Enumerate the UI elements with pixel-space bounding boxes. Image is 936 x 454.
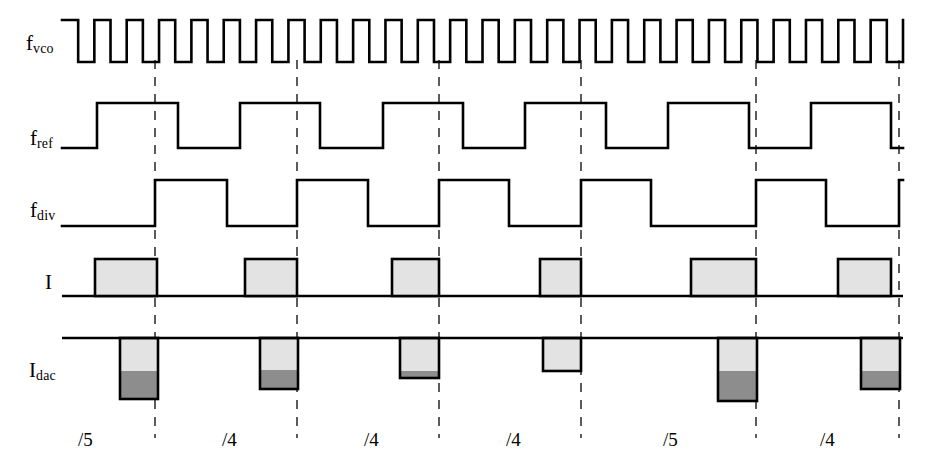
dac-pulse-dark-5: [861, 371, 900, 389]
trace-f_div: [62, 180, 903, 226]
current-pulse-5: [838, 259, 891, 296]
current-pulse-3: [540, 259, 581, 296]
dac-pulse-light-1: [260, 338, 298, 370]
signal-label-subscript-fref: ref: [37, 136, 53, 151]
signal-label-subscript-fvco: vco: [33, 41, 54, 56]
signal-label-subscript-fdiv: div: [37, 208, 55, 223]
current-pulse-0: [95, 259, 157, 296]
signal-label-subscript-idac: dac: [36, 368, 56, 383]
signal-label-fvco: fvco: [26, 33, 54, 56]
dac-pulse-light-4: [718, 338, 757, 371]
dac-pulse-dark-1: [260, 370, 298, 389]
signal-label-i: I: [45, 272, 52, 293]
current-pulse-1: [245, 259, 297, 296]
signal-label-base-idac: I: [29, 358, 36, 382]
signal-label-fdiv: fdiv: [30, 200, 55, 223]
divider-ratio-label-1: /4: [222, 430, 237, 449]
dac-pulse-dark-0: [120, 371, 158, 399]
signal-label-fref: fref: [30, 128, 53, 151]
waveform-canvas: [0, 0, 936, 454]
dac-pulse-light-3: [543, 338, 581, 371]
timing-diagram-figure: fvco fref fdiv I Idac /5/4/4/4/5/4: [0, 0, 936, 454]
signal-label-base-fvco: f: [26, 31, 33, 55]
current-pulse-4: [691, 259, 756, 296]
trace-f_vco: [62, 20, 903, 62]
signal-label-base-fdiv: f: [30, 198, 37, 222]
dac-pulse-light-0: [120, 338, 158, 371]
signal-traces: [62, 20, 903, 401]
dac-pulse-dark-4: [718, 371, 757, 401]
divider-ratio-label-5: /4: [820, 430, 835, 449]
signal-label-base-fref: f: [30, 126, 37, 150]
current-pulse-2: [392, 259, 439, 296]
divider-ratio-label-2: /4: [364, 430, 379, 449]
divider-ratio-label-0: /5: [78, 430, 93, 449]
divider-ratio-label-3: /4: [506, 430, 521, 449]
divider-ratio-label-4: /5: [663, 430, 678, 449]
dac-pulse-light-2: [400, 338, 439, 371]
signal-label-idac: Idac: [29, 360, 56, 383]
trace-f_ref: [62, 103, 903, 148]
signal-label-base-i: I: [45, 270, 52, 294]
dac-pulse-light-5: [861, 338, 900, 371]
